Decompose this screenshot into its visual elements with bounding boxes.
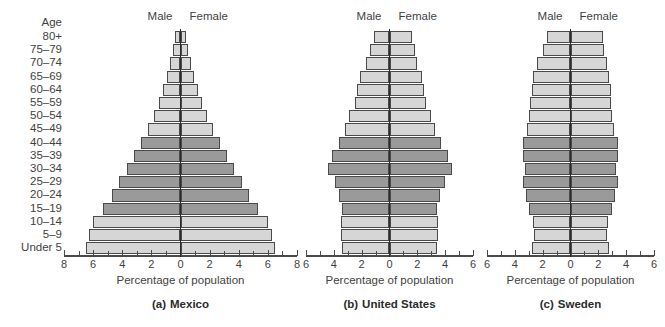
- pyramid-bar-female: [571, 110, 613, 122]
- pyramid-bar-female: [571, 84, 611, 96]
- x-axis-minor-tick: [529, 251, 530, 256]
- pyramid-bar-female: [571, 229, 607, 241]
- pyramid-bar-male: [523, 176, 570, 188]
- pyramid-bar-male: [543, 44, 571, 56]
- panel-caption-letter: (c): [540, 298, 554, 310]
- pyramid-bar-female: [571, 176, 618, 188]
- panel-caption-name: Sweden: [558, 298, 601, 310]
- pyramid-bar-female: [571, 97, 611, 109]
- x-axis-tick: [515, 250, 516, 256]
- pyramid-bar-female: [571, 71, 610, 83]
- x-axis-tick: [487, 250, 488, 256]
- pyramid-bar-male: [532, 242, 571, 254]
- female-axis-label: Female: [580, 10, 635, 22]
- x-axis-tick-label: 0: [560, 258, 582, 270]
- x-axis-minor-tick: [612, 251, 613, 256]
- x-axis-minor-tick: [584, 251, 585, 256]
- pyramid-bar-female: [571, 163, 617, 175]
- pyramid-bar-female: [571, 203, 613, 215]
- panel-caption: (c)Sweden: [481, 298, 661, 310]
- pyramid-bar-male: [532, 84, 571, 96]
- population-pyramid-figure: Age80+75–7970–7465–6960–6455–5950–5445–4…: [0, 0, 665, 327]
- x-axis-tick-label: 6: [476, 258, 498, 270]
- center-axis-line: [389, 29, 391, 257]
- pyramid-bar-male: [526, 189, 571, 201]
- pyramid-bar-female: [571, 137, 618, 149]
- x-axis-tick: [626, 250, 627, 256]
- pyramid-bar-male: [534, 229, 570, 241]
- x-axis-tick-label: 2: [587, 258, 609, 270]
- pyramid-bar-male: [523, 137, 570, 149]
- x-axis-tick: [654, 250, 655, 256]
- x-axis-minor-tick: [501, 251, 502, 256]
- pyramid-bar-male: [533, 71, 571, 83]
- pyramid-bar-male: [537, 57, 570, 69]
- pyramid-bar-female: [571, 123, 614, 135]
- x-axis-tick-label: 2: [532, 258, 554, 270]
- pyramid-bar-male: [523, 150, 570, 162]
- pyramid-bar-female: [571, 189, 616, 201]
- x-axis-tick: [543, 250, 544, 256]
- center-axis-line: [180, 29, 182, 257]
- x-axis-minor-tick: [640, 251, 641, 256]
- pyramid-bar-female: [571, 31, 603, 43]
- pyramid-bar-male: [529, 110, 571, 122]
- center-axis-line: [570, 29, 572, 257]
- pyramid-bar-male: [533, 216, 571, 228]
- pyramid-bar-male: [527, 123, 570, 135]
- pyramid-bar-female: [571, 242, 610, 254]
- x-axis-tick-label: 4: [615, 258, 637, 270]
- pyramid-bar-female: [571, 57, 607, 69]
- pyramid-bar-female: [571, 44, 604, 56]
- pyramid-bar-male: [530, 97, 570, 109]
- male-axis-label: Male: [513, 10, 563, 22]
- pyramid-bar-male: [529, 203, 571, 215]
- pyramid-bar-male: [525, 163, 571, 175]
- x-axis-tick-label: 6: [643, 258, 665, 270]
- pyramid-bar-female: [571, 150, 618, 162]
- x-axis-tick: [598, 250, 599, 256]
- pyramid-bar-male: [547, 31, 571, 43]
- pyramid-bar-female: [571, 216, 609, 228]
- chart-panel-sweden: MaleFemale6420246Percentage of populatio…: [0, 0, 665, 327]
- x-axis-tick-label: 4: [504, 258, 526, 270]
- x-axis-minor-tick: [557, 251, 558, 256]
- x-axis-title: Percentage of population: [481, 274, 661, 286]
